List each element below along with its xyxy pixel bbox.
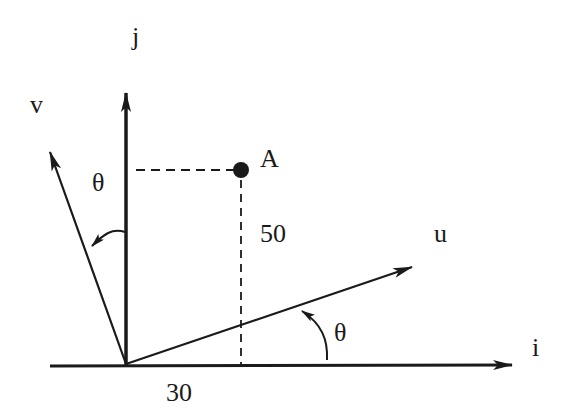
diagram-svg	[0, 0, 568, 416]
label-point-a: A	[260, 146, 279, 172]
label-theta-v: θ	[92, 170, 104, 196]
angle-arc-u	[302, 311, 327, 360]
point-a-marker	[233, 162, 249, 178]
diagram-canvas: j v u i A θ θ 50 30	[0, 0, 568, 416]
label-dim-50: 50	[260, 221, 286, 247]
label-dim-30: 30	[166, 380, 192, 406]
angle-arc-v	[92, 231, 125, 246]
i-axis	[50, 365, 512, 366]
label-i: i	[532, 335, 539, 361]
label-u: u	[434, 221, 447, 247]
u-axis	[126, 267, 412, 364]
label-j: j	[132, 24, 139, 50]
label-theta-u: θ	[334, 320, 346, 346]
label-v: v	[30, 92, 43, 118]
v-axis	[50, 152, 126, 364]
